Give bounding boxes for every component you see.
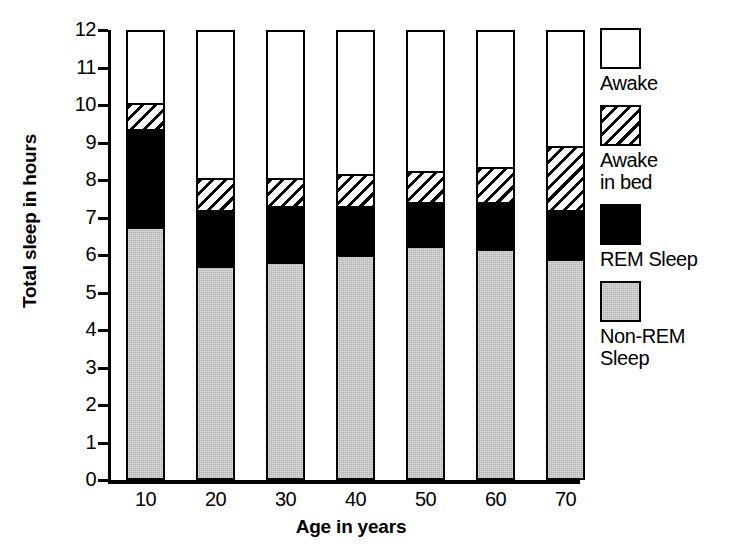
segment-non-rem-sleep [198, 266, 233, 478]
y-axis-tick-label: 9 [56, 132, 96, 152]
y-axis-tick [98, 217, 108, 220]
y-axis-line [108, 30, 111, 481]
legend-swatch-rem [600, 204, 641, 245]
segment-awake [268, 30, 303, 178]
bar-60 [476, 30, 515, 480]
chart-legend: AwakeAwake in bedREM SleepNon-REM Sleep [600, 28, 750, 380]
x-axis-line [108, 480, 580, 484]
segment-rem-sleep [338, 208, 373, 255]
y-axis-tick [98, 329, 108, 332]
y-axis-tick [98, 29, 108, 32]
segment-rem-sleep [198, 212, 233, 266]
segment-awake [548, 30, 583, 146]
y-axis-tick [98, 142, 108, 145]
legend-item-awake-in-bed: Awake in bed [600, 105, 750, 193]
y-axis-tick [98, 104, 108, 107]
legend-item-awake: Awake [600, 28, 750, 94]
segment-non-rem-sleep [408, 246, 443, 479]
segment-non-rem-sleep [338, 255, 373, 478]
legend-label-awake-in-bed: Awake in bed [600, 149, 750, 193]
x-axis-title: Age in years [126, 516, 576, 538]
y-axis-tick [98, 254, 108, 257]
segment-awake [338, 30, 373, 174]
y-axis-tick-label: 2 [56, 394, 96, 414]
bar-30 [266, 30, 305, 480]
bar-20 [196, 30, 235, 480]
y-axis-tick [98, 179, 108, 182]
x-axis-tick-label-50: 50 [396, 488, 456, 511]
segment-non-rem-sleep [548, 259, 583, 478]
y-axis-tick [98, 292, 108, 295]
bar-40 [336, 30, 375, 480]
segment-rem-sleep [268, 208, 303, 262]
x-axis-tick-label-20: 20 [186, 488, 246, 511]
segment-non-rem-sleep [268, 262, 303, 478]
segment-awake [198, 30, 233, 178]
segment-non-rem-sleep [478, 249, 513, 478]
segment-awake-in-bed [478, 167, 513, 205]
segment-rem-sleep [548, 212, 583, 259]
x-axis-tick-label-40: 40 [326, 488, 386, 511]
segment-awake-in-bed [128, 103, 163, 131]
y-axis-tick-label: 4 [56, 319, 96, 339]
x-axis-tick-label-10: 10 [116, 488, 176, 511]
segment-awake-in-bed [408, 171, 443, 205]
y-axis-tick [98, 404, 108, 407]
y-axis-tick [98, 367, 108, 370]
legend-label-awake: Awake [600, 72, 750, 94]
legend-label-non-rem: Non-REM Sleep [600, 325, 750, 369]
bar-10 [126, 30, 165, 480]
legend-swatch-awake [600, 28, 641, 69]
sleep-stages-stacked-bar-chart: Total sleep in hours 0123456789101112 10… [0, 0, 751, 559]
segment-awake-in-bed [338, 174, 373, 208]
segment-rem-sleep [128, 131, 163, 227]
legend-swatch-awake-in-bed [600, 105, 641, 146]
y-axis-tick-label: 3 [56, 357, 96, 377]
segment-awake-in-bed [548, 146, 583, 212]
legend-swatch-non-rem [600, 281, 641, 322]
bar-70 [546, 30, 585, 480]
y-axis-tick-labels: 0123456789101112 [44, 30, 96, 481]
legend-item-non-rem: Non-REM Sleep [600, 281, 750, 369]
segment-rem-sleep [408, 204, 443, 245]
y-axis-tick [98, 67, 108, 70]
legend-label-rem: REM Sleep [600, 248, 750, 270]
bar-50 [406, 30, 445, 480]
y-axis-tick-label: 11 [56, 57, 96, 77]
x-axis-tick-label-60: 60 [466, 488, 526, 511]
segment-awake [408, 30, 443, 171]
y-axis-tick [98, 442, 108, 445]
y-axis-tick-label: 5 [56, 282, 96, 302]
y-axis-title: Total sleep in hours [19, 41, 41, 401]
segment-awake-in-bed [198, 178, 233, 212]
y-axis-tick-label: 7 [56, 207, 96, 227]
segment-rem-sleep [478, 204, 513, 249]
plot-area: 0123456789101112 10203040506070 [126, 30, 576, 480]
legend-item-rem: REM Sleep [600, 204, 750, 270]
segment-awake-in-bed [268, 178, 303, 208]
y-axis-tick-label: 12 [56, 19, 96, 39]
x-axis-tick-label-30: 30 [256, 488, 316, 511]
y-axis-tick-label: 8 [56, 169, 96, 189]
x-axis-tick-label-70: 70 [536, 488, 596, 511]
segment-awake [478, 30, 513, 167]
y-axis-tick [98, 479, 108, 482]
y-axis-tick-label: 0 [56, 469, 96, 489]
y-axis-tick-label: 6 [56, 244, 96, 264]
y-axis-tick-label: 1 [56, 432, 96, 452]
y-axis-tick-label: 10 [56, 94, 96, 114]
segment-non-rem-sleep [128, 227, 163, 478]
segment-awake [128, 30, 163, 103]
